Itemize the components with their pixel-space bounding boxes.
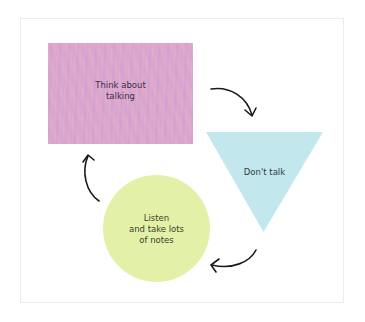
arrow-think-to-dont-talk-icon — [211, 89, 256, 116]
cycle-arrows — [0, 0, 365, 322]
arrow-listen-to-think-icon — [83, 155, 99, 201]
arrow-dont-talk-to-listen-icon — [211, 250, 256, 272]
cycle-diagram: Think about talking Don't talk Listen an… — [0, 0, 365, 322]
